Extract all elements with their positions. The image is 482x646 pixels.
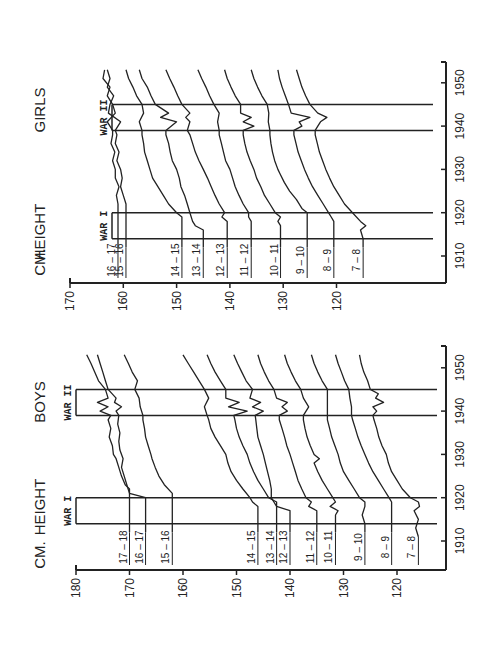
height-trend-charts: 12013014015016017019101920193019401950CM… <box>0 0 482 646</box>
series-line <box>87 355 130 533</box>
year-tick-label: 1910 <box>453 527 467 554</box>
chart-title-part: BOYS <box>31 381 48 423</box>
series-line <box>225 70 281 248</box>
series-14-15: 14 – 15 <box>183 355 258 565</box>
height-tick-label: 130 <box>337 578 351 598</box>
series-label: 11 – 12 <box>305 530 316 563</box>
series-label: 13 – 14 <box>191 243 202 277</box>
series-10-11: 10 – 11 <box>225 70 281 278</box>
height-tick-label: 120 <box>330 291 344 311</box>
war-period-1: WAR I <box>99 211 433 241</box>
height-tick-label: 130 <box>276 291 290 311</box>
series-label: 10 – 11 <box>323 530 334 563</box>
series-label: 7 – 8 <box>351 248 362 271</box>
series-7-8: 7 – 8 <box>360 355 420 565</box>
year-tick-label: 1940 <box>453 112 467 139</box>
series-line <box>124 355 172 533</box>
height-tick-label: 160 <box>116 291 130 311</box>
series-label: 16 – 17 <box>134 530 145 564</box>
height-tick-label: 160 <box>176 578 190 598</box>
series-label: 9 – 10 <box>353 533 364 561</box>
series-line <box>107 70 126 248</box>
series-9-10: 9 – 10 <box>311 355 365 565</box>
year-tick-label: 1950 <box>453 354 467 381</box>
series-line <box>336 355 392 533</box>
series-label: 15 – 16 <box>114 243 125 277</box>
height-tick-label: 170 <box>63 291 77 311</box>
series-label: 13 – 14 <box>265 530 276 564</box>
year-tick-label: 1930 <box>453 441 467 468</box>
series-line <box>285 355 339 533</box>
series-label: 12 – 13 <box>215 243 226 277</box>
series-line <box>311 355 365 533</box>
series-line <box>139 70 203 248</box>
height-axis: 120130140150160170180 <box>69 565 446 598</box>
year-tick-label: 1930 <box>453 156 467 183</box>
boys-height-panel: 1201301401501601701801910192019301940195… <box>31 346 467 598</box>
series-line <box>97 355 145 533</box>
series-label: 8 – 9 <box>322 248 333 271</box>
year-axis: 19101920193019401950 <box>441 346 467 570</box>
series-line <box>360 355 420 537</box>
series-label: 15 – 16 <box>160 530 171 564</box>
series-line <box>251 70 307 248</box>
war-label: WAR I <box>99 211 110 241</box>
height-tick-label: 140 <box>283 578 297 598</box>
year-tick-label: 1910 <box>453 242 467 269</box>
series-line <box>258 355 317 533</box>
year-axis: 19101920193019401950 <box>441 62 467 283</box>
series-line <box>198 70 251 248</box>
year-tick-label: 1950 <box>453 69 467 96</box>
war-period-1: WAR I <box>63 496 437 526</box>
series-label: 11 – 12 <box>239 243 250 276</box>
series-label: 14 – 15 <box>246 530 257 564</box>
series-line <box>207 355 277 533</box>
series-label: 12 – 13 <box>278 530 289 564</box>
series-label: 10 – 11 <box>269 243 280 276</box>
chart-title-part: HEIGHT <box>31 479 48 536</box>
height-tick-label: 140 <box>223 291 237 311</box>
year-tick-label: 1920 <box>453 484 467 511</box>
war-label: WAR II <box>99 99 110 135</box>
chart-title-part: HEIGHT <box>31 204 48 261</box>
war-label: WAR II <box>63 384 74 420</box>
series-label: 17 – 18 <box>118 530 129 564</box>
series-label: 8 – 9 <box>380 535 391 558</box>
war-period-2: WAR II <box>99 99 433 135</box>
series-label: 14 – 15 <box>170 243 181 277</box>
series-12-13: 12 – 13 <box>234 355 290 565</box>
height-axis: 120130140150160170 <box>63 278 446 311</box>
series-label: 9 – 10 <box>295 246 306 274</box>
series-15-16: 15 – 16 <box>124 355 172 565</box>
height-tick-label: 170 <box>123 578 137 598</box>
height-tick-label: 120 <box>390 578 404 598</box>
height-tick-label: 150 <box>170 291 184 311</box>
series-line <box>166 70 227 248</box>
series-line <box>126 70 182 248</box>
series-13-14: 13 – 14 <box>207 355 277 565</box>
year-tick-label: 1940 <box>453 397 467 424</box>
war-label: WAR I <box>63 496 74 526</box>
height-tick-label: 150 <box>230 578 244 598</box>
series-label: 7 – 8 <box>406 535 417 558</box>
year-tick-label: 1920 <box>453 199 467 226</box>
chart-title-part: GIRLS <box>31 87 48 132</box>
unit-label: CM. <box>31 541 48 569</box>
height-tick-label: 180 <box>69 578 83 598</box>
girls-height-panel: 12013014015016017019101920193019401950CM… <box>31 62 467 311</box>
